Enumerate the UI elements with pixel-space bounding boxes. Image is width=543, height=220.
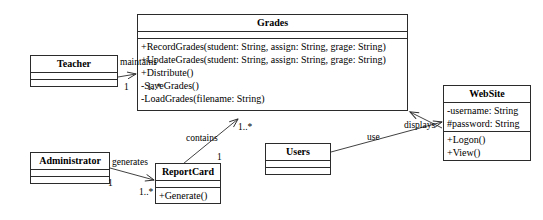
class-operations-website: +Logon() +View() [444, 131, 530, 160]
association-label-generates: generates [112, 157, 148, 168]
attribute-item: -username: String [447, 104, 527, 117]
class-box-teacher[interactable]: Teacher [30, 55, 118, 87]
class-name-administrator: Administrator [31, 153, 109, 169]
operation-item: +Generate() [159, 189, 217, 202]
class-attributes-reportcard [156, 180, 220, 187]
class-attributes-users [266, 160, 330, 167]
class-operations-grades: +RecordGrades(student: String, assign: S… [138, 38, 407, 110]
multiplicity-teacher-maintains-target: 1..* [147, 82, 161, 93]
class-box-reportcard[interactable]: ReportCard +Generate() [155, 163, 221, 204]
operation-item: +Distribute() [141, 66, 404, 79]
class-name-grades: Grades [138, 15, 407, 31]
operation-item: -SaveGrades() [141, 79, 404, 92]
operation-item: +RecordGrades(student: String, assign: S… [141, 40, 404, 53]
multiplicity-generates-target: 1..* [139, 187, 153, 198]
class-name-reportcard: ReportCard [156, 164, 220, 180]
multiplicity-teacher-maintains-source: 1 [124, 82, 129, 93]
operation-item: +UpdateGrades(student: String, assign: S… [141, 53, 404, 66]
class-attributes-administrator [31, 169, 109, 176]
association-label-displays: displays [404, 120, 435, 131]
class-name-users: Users [266, 144, 330, 160]
attribute-item: #password: String [447, 117, 527, 130]
class-operations-teacher [31, 79, 117, 86]
association-label-contains: contains [186, 133, 218, 144]
class-operations-administrator [31, 176, 109, 183]
association-line-generates [110, 168, 154, 180]
association-label-maintains: maintains [120, 57, 157, 68]
class-attributes-website: -username: String #password: String [444, 102, 530, 131]
class-operations-users [266, 167, 330, 174]
class-name-teacher: Teacher [31, 56, 117, 72]
operation-item: +View() [447, 146, 527, 159]
class-attributes-grades [138, 31, 407, 38]
multiplicity-contains-source: 1 [217, 152, 222, 163]
association-label-use: use [367, 132, 380, 143]
class-box-users[interactable]: Users [265, 143, 331, 175]
association-line-maintains [118, 74, 136, 77]
class-box-website[interactable]: WebSite -username: String #password: Str… [443, 85, 531, 161]
uml-class-diagram: Grades +RecordGrades(student: String, as… [0, 0, 543, 220]
operation-item: +Logon() [447, 133, 527, 146]
class-attributes-teacher [31, 72, 117, 79]
class-name-website: WebSite [444, 86, 530, 102]
multiplicity-contains-target: 1..* [238, 122, 252, 133]
operation-item: -LoadGrades(filename: String) [141, 92, 404, 105]
class-box-grades[interactable]: Grades +RecordGrades(student: String, as… [137, 14, 408, 111]
multiplicity-generates-source: 1 [108, 178, 113, 189]
class-box-administrator[interactable]: Administrator [30, 152, 110, 184]
class-operations-reportcard: +Generate() [156, 187, 220, 203]
